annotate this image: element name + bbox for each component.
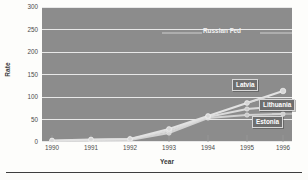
y-axis-tick-labels: 300 250 200 150 100 50 0 <box>14 0 38 180</box>
series-label-latvia: Latvia <box>232 79 258 91</box>
page-margin <box>0 173 308 180</box>
y-tick-label: 150 <box>16 72 38 78</box>
x-tick-label: 1990 <box>32 145 72 151</box>
x-tick-label: 1994 <box>188 145 228 151</box>
y-axis-title: Rate <box>4 50 11 90</box>
x-axis-tick-labels: 1990 1991 1992 1993 1994 1995 1996 <box>42 145 292 157</box>
chart-figure: Rate 300 250 200 150 100 50 0 <box>0 0 308 180</box>
y-tick-label: 200 <box>16 49 38 55</box>
x-tick-label: 1996 <box>263 145 303 151</box>
series-line-lithuania <box>50 104 285 142</box>
y-tick-label: 250 <box>16 27 38 33</box>
x-tick-label: 1995 <box>227 145 267 151</box>
x-axis-title: Year <box>42 158 292 165</box>
y-tick-label: 300 <box>16 4 38 10</box>
y-tick-label: 50 <box>16 117 38 123</box>
x-tick-label: 1992 <box>110 145 150 151</box>
y-tick-label: 100 <box>16 94 38 100</box>
series-label-russian-fed: Russian Fed <box>203 28 241 34</box>
x-tick-label: 1993 <box>149 145 189 151</box>
series-label-lithuania: Lithuania <box>259 99 295 111</box>
series-label-estonia: Estonia <box>252 116 283 128</box>
x-tick-label: 1991 <box>71 145 111 151</box>
